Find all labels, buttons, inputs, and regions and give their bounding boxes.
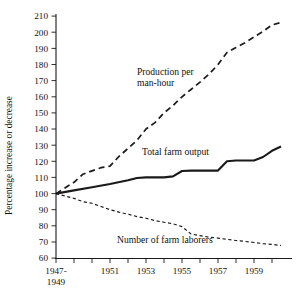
series-label-number-of-farm-laborers: Number of farm laborers — [117, 234, 213, 245]
x-tick-label-base-line2: 1949 — [47, 277, 66, 287]
svg-text:200: 200 — [34, 28, 48, 38]
x-tick-label-1955: 1955 — [173, 266, 192, 276]
svg-text:60: 60 — [39, 253, 49, 263]
svg-text:120: 120 — [34, 157, 48, 167]
svg-text:110: 110 — [35, 173, 49, 183]
farm-productivity-line-chart: Percentage increase or decrease 210 200 … — [0, 0, 299, 298]
x-tick-label-1951: 1951 — [101, 266, 120, 276]
x-tick-label-1953: 1953 — [137, 266, 156, 276]
series-label-total-farm-output: Total farm output — [142, 146, 209, 157]
svg-text:190: 190 — [34, 44, 48, 54]
svg-text:90: 90 — [39, 205, 49, 215]
svg-text:140: 140 — [34, 124, 48, 134]
svg-text:210: 210 — [34, 11, 48, 21]
svg-text:130: 130 — [34, 141, 48, 151]
svg-text:100: 100 — [34, 189, 48, 199]
svg-text:160: 160 — [34, 92, 48, 102]
chart-figure: Percentage increase or decrease 210 200 … — [0, 0, 299, 298]
svg-text:70: 70 — [39, 237, 49, 247]
x-tick-label-1959: 1959 — [245, 266, 264, 276]
x-tick-label-1957: 1957 — [209, 266, 228, 276]
svg-text:man-hour: man-hour — [137, 77, 175, 88]
svg-text:80: 80 — [39, 221, 49, 231]
svg-text:180: 180 — [34, 60, 48, 70]
svg-text:170: 170 — [34, 76, 48, 86]
x-tick-label-base-line1: 1947- — [45, 266, 66, 276]
svg-text:150: 150 — [34, 108, 48, 118]
svg-text:Production per: Production per — [137, 66, 195, 77]
y-axis-title: Percentage increase or decrease — [4, 96, 14, 215]
